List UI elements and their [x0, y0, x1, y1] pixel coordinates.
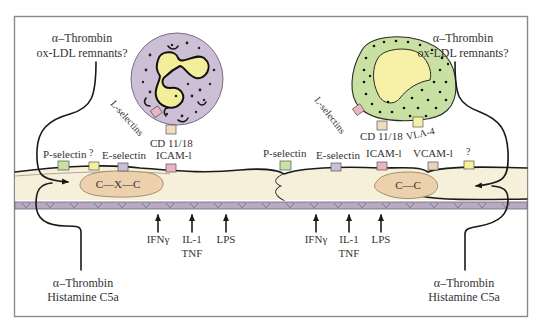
tnf-label-left: TNF	[182, 247, 203, 259]
lps-label-right: LPS	[372, 233, 391, 245]
icam-label-right: ICAM-l	[366, 147, 401, 159]
top-right-line2: ox-LDL remnants?	[417, 46, 508, 60]
lps-label-left: LPS	[217, 233, 236, 245]
il1-label-right: IL-1	[339, 233, 359, 245]
bottom-left-line2: Histamine C5a	[47, 290, 119, 304]
icam-receptor-left	[166, 164, 176, 172]
cxc-nucleus-label: C—X—C	[96, 178, 141, 190]
icam-receptor-right	[377, 162, 387, 170]
e-selectin-label-right: E-selectin	[316, 149, 360, 161]
e-selectin-label-left: E-selectin	[102, 149, 146, 161]
p-selectin-receptor-right	[280, 161, 291, 170]
vcam-receptor-right	[428, 162, 438, 170]
vla4-monocyte	[413, 117, 423, 127]
top-right-line1: α–Thrombin	[433, 31, 493, 45]
unknown-receptor-left	[89, 162, 99, 170]
cd11-18-neutrophil	[166, 125, 176, 134]
e-selectin-receptor-left	[118, 163, 128, 171]
bottom-right-line2: Histamine C5a	[428, 290, 500, 304]
top-left-line1: α–Thrombin	[52, 31, 112, 45]
cd11-18-label-neutrophil: CD 11/18	[150, 137, 193, 149]
unknown-receptor-right	[464, 161, 474, 169]
unknown-label-right: ?	[466, 146, 471, 157]
e-selectin-receptor-right	[331, 163, 341, 171]
vcam-label-right: VCAM-l	[413, 147, 453, 159]
cxc-nucleus: C—X—C	[80, 171, 163, 197]
icam-label-left: ICAM-l	[156, 149, 191, 161]
cc-nucleus-label: C—C	[395, 179, 421, 191]
bottom-right-line1: α–Thrombin	[434, 276, 494, 290]
basement-membrane	[15, 202, 527, 209]
p-selectin-label-right: P-selectin	[263, 147, 307, 159]
chemokine-adhesion-diagram: C—X—C C—C P-selectin ? E-selectin ICAM-l…	[0, 0, 539, 324]
ifn-label-left: IFNγ	[147, 233, 170, 245]
p-selectin-receptor-left	[58, 161, 69, 170]
bottom-left-line1: α–Thrombin	[53, 276, 113, 290]
tnf-label-right: TNF	[339, 247, 360, 259]
cd11-18-monocyte	[377, 121, 387, 130]
p-selectin-label-left: P-selectin	[43, 148, 87, 160]
top-left-line2: ox-LDL remnants?	[36, 46, 127, 60]
unknown-label-left: ?	[89, 147, 94, 158]
ifn-label-right: IFNγ	[305, 233, 328, 245]
cd11-18-label-monocyte: CD 11/18	[360, 130, 403, 142]
il1-label-left: IL-1	[182, 233, 202, 245]
